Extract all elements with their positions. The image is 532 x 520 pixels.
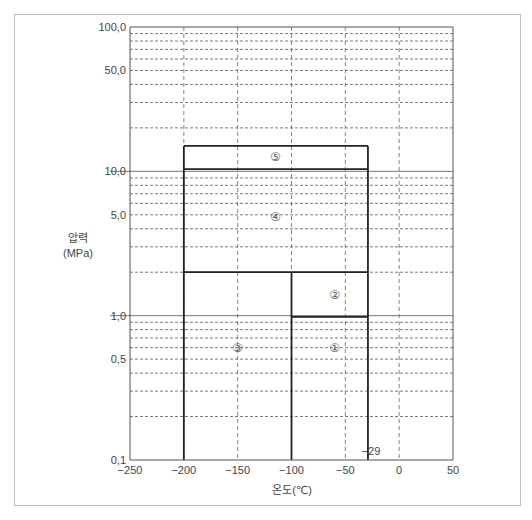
y-tick-label: 0,1 [111, 454, 126, 466]
x-tick-label: −50 [336, 464, 355, 476]
y-tick-label: 100,0 [98, 21, 126, 33]
y-tick-label: 10,0 [105, 165, 126, 177]
annotation-minus-29: −29 [362, 445, 381, 457]
y-tick-label: 0,5 [111, 353, 126, 365]
y-axis-label-line2: (MPa) [63, 247, 93, 259]
x-tick-label: −200 [171, 464, 196, 476]
y-axis-label-line1: 압력 [68, 232, 88, 244]
gridlines [110, 27, 453, 460]
region-label: ④ [270, 210, 281, 224]
region-label: ① [329, 341, 340, 355]
x-tick-label: 50 [447, 464, 459, 476]
y-tick-label: 1,0 [111, 310, 126, 322]
y-tick-label: 50,0 [105, 64, 126, 76]
region-label: ② [329, 288, 340, 302]
pressure-temperature-chart: ①②③④⑤ −250−200−150−100−50050100,050,010,… [0, 0, 532, 520]
region-label: ⑤ [270, 150, 281, 164]
x-tick-label: −100 [279, 464, 304, 476]
region-label: ③ [232, 341, 243, 355]
x-axis-label: 온도(℃) [272, 484, 312, 496]
x-tick-label: −150 [225, 464, 250, 476]
axes: −250−200−150−100−50050100,050,010,05,01,… [98, 21, 459, 476]
y-tick-label: 5,0 [111, 209, 126, 221]
region-boundaries: ①②③④⑤ [184, 146, 368, 460]
x-tick-label: 0 [396, 464, 402, 476]
